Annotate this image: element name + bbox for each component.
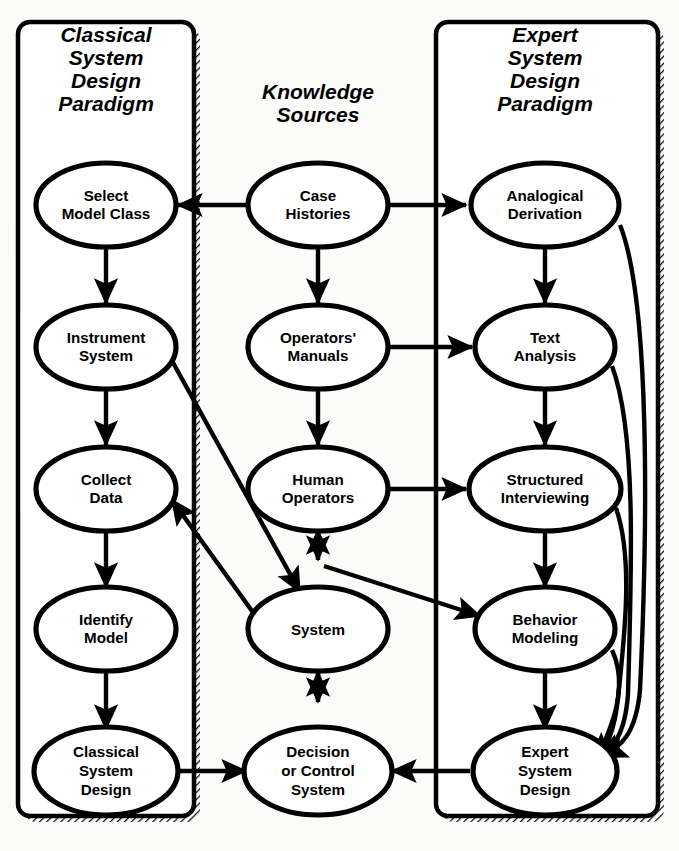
node-expert-system-design-line-2: System <box>518 762 572 779</box>
node-classical-system-design-line-3: Design <box>81 781 132 798</box>
header-classical-line-2: System <box>69 46 144 69</box>
node-operators-manuals-line-1: Operators' <box>280 329 356 346</box>
node-text-analysis[interactable]: Text Analysis <box>475 305 615 389</box>
node-operators-manuals[interactable]: Operators' Manuals <box>248 305 388 389</box>
node-structured-interviewing[interactable]: Structured Interviewing <box>469 447 621 531</box>
header-classical: Classical System Design Paradigm <box>58 23 154 115</box>
node-human-operators[interactable]: Human Operators <box>248 447 388 531</box>
node-analogical-derivation[interactable]: Analogical Derivation <box>471 163 619 247</box>
node-collect-data-line-1: Collect <box>81 471 132 488</box>
node-classical-system-design[interactable]: Classical System Design <box>34 727 178 815</box>
node-identify-model-line-2: Model <box>84 629 128 646</box>
header-classical-line-1: Classical <box>60 23 152 46</box>
node-behavior-modeling[interactable]: Behavior Modeling <box>475 587 615 671</box>
panel-classical <box>18 22 200 822</box>
node-analogical-derivation-line-1: Analogical <box>507 187 584 204</box>
node-text-analysis-line-1: Text <box>530 329 560 346</box>
node-classical-system-design-line-1: Classical <box>73 743 139 760</box>
node-expert-system-design-line-3: Design <box>520 781 571 798</box>
node-select-model-class-line-2: Model Class <box>62 205 151 222</box>
node-human-operators-line-1: Human <box>292 471 343 488</box>
node-structured-interviewing-line-1: Structured <box>507 471 584 488</box>
node-analogical-derivation-line-2: Derivation <box>508 205 582 222</box>
node-case-histories-line-2: Histories <box>286 205 351 222</box>
node-human-operators-line-2: Operators <box>282 489 355 506</box>
node-text-analysis-line-2: Analysis <box>514 347 576 364</box>
header-knowledge: Knowledge Sources <box>262 80 374 126</box>
header-knowledge-line-1: Knowledge <box>262 80 374 103</box>
node-expert-system-design-line-1: Expert <box>521 743 568 760</box>
node-expert-system-design[interactable]: Expert System Design <box>473 727 617 815</box>
node-instrument-system-line-1: Instrument <box>67 329 145 346</box>
node-select-model-class-line-1: Select <box>84 187 129 204</box>
header-expert-line-3: Design <box>510 69 580 92</box>
node-structured-interviewing-line-2: Interviewing <box>501 489 590 506</box>
node-identify-model[interactable]: Identify Model <box>36 587 176 671</box>
node-classical-system-design-line-2: System <box>79 762 133 779</box>
node-case-histories-line-1: Case <box>300 187 336 204</box>
header-expert-line-2: System <box>508 46 583 69</box>
header-classical-line-3: Design <box>71 69 141 92</box>
node-system[interactable]: System <box>248 587 388 671</box>
header-knowledge-line-2: Sources <box>277 103 360 126</box>
header-expert-line-4: Paradigm <box>497 92 593 115</box>
header-classical-line-4: Paradigm <box>58 92 154 115</box>
node-decision-or-control-system-line-1: Decision <box>286 743 349 760</box>
node-behavior-modeling-line-2: Modeling <box>512 629 579 646</box>
node-decision-or-control-system-line-2: or Control <box>281 762 354 779</box>
node-collect-data[interactable]: Collect Data <box>36 447 176 531</box>
panel-expert <box>436 22 664 822</box>
node-collect-data-line-2: Data <box>90 489 123 506</box>
node-case-histories[interactable]: Case Histories <box>248 163 388 247</box>
diagram-canvas: Classical System Design Paradigm Knowled… <box>0 0 679 851</box>
header-expert-line-1: Expert <box>512 23 578 46</box>
node-system-line-1: System <box>291 621 345 638</box>
node-decision-or-control-system-line-3: System <box>291 781 345 798</box>
node-instrument-system-line-2: System <box>79 347 133 364</box>
node-behavior-modeling-line-1: Behavior <box>513 611 578 628</box>
paradigm-diagram: Classical System Design Paradigm Knowled… <box>0 0 679 851</box>
node-decision-or-control-system[interactable]: Decision or Control System <box>244 727 392 815</box>
node-identify-model-line-1: Identify <box>79 611 134 628</box>
node-select-model-class[interactable]: Select Model Class <box>36 163 176 247</box>
node-instrument-system[interactable]: Instrument System <box>36 305 176 389</box>
node-operators-manuals-line-2: Manuals <box>288 347 349 364</box>
